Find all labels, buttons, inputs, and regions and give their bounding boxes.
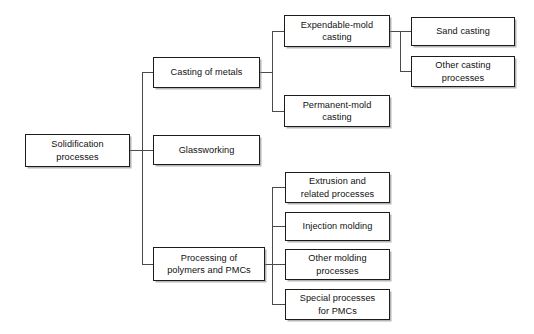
node-label-line2: casting	[288, 111, 386, 123]
solidification-processes-diagram: Solidification processes Casting of meta…	[0, 0, 534, 334]
node-label: Processing of polymers and PMCs	[157, 252, 261, 276]
node-label-line2: processes	[415, 72, 511, 84]
node-label-line1: Expendable-mold	[288, 19, 386, 31]
node-label-line1: Other casting	[415, 59, 511, 71]
connector-trunk-level1	[142, 72, 143, 264]
node-label-line1: Solidification	[29, 138, 126, 150]
node-label: Injection molding	[289, 220, 386, 232]
node-label: Expendable-mold casting	[288, 19, 386, 43]
node-label-line1: Extrusion and	[289, 175, 386, 187]
node-label-line1: Processing of	[157, 252, 261, 264]
node-sand-casting[interactable]: Sand casting	[411, 17, 515, 46]
node-label-line2: casting	[288, 31, 386, 43]
node-solidification-processes[interactable]: Solidification processes	[25, 134, 130, 167]
node-label: Casting of metals	[157, 66, 256, 78]
node-label-line1: Permanent-mold	[288, 99, 386, 111]
connector-expendable-to-sand	[400, 31, 411, 32]
node-label-line2: processes	[29, 151, 126, 163]
node-label: Special processes for PMCs	[289, 292, 386, 316]
node-other-casting-processes[interactable]: Other casting processes	[411, 56, 515, 87]
node-label-line1: Injection molding	[289, 220, 386, 232]
node-processing-of-polymers-and-pmcs[interactable]: Processing of polymers and PMCs	[153, 247, 265, 281]
node-casting-of-metals[interactable]: Casting of metals	[153, 57, 260, 88]
node-other-molding-processes[interactable]: Other molding processes	[285, 249, 390, 280]
node-label: Sand casting	[415, 25, 511, 37]
connector-casting-to-expendable	[272, 31, 284, 32]
node-label-line2: processes	[289, 265, 386, 277]
node-label: Other molding processes	[289, 252, 386, 276]
node-extrusion-and-related-processes[interactable]: Extrusion and related processes	[285, 172, 390, 203]
node-label-line2: related processes	[289, 188, 386, 200]
connector-casting-branch-vertical	[272, 31, 273, 111]
node-special-processes-for-pmcs[interactable]: Special processes for PMCs	[285, 289, 390, 320]
node-label: Solidification processes	[29, 138, 126, 162]
connector-polymers-branch-vertical	[272, 187, 273, 304]
node-label-line1: Other molding	[289, 252, 386, 264]
connector-polymers-to-injection	[272, 226, 285, 227]
node-label-line2: for PMCs	[289, 305, 386, 317]
connector-casting-to-permanent	[272, 111, 284, 112]
node-label-line1: Sand casting	[415, 25, 511, 37]
node-label-line2: polymers and PMCs	[157, 264, 261, 276]
connector-expendable-branch-vertical	[400, 31, 401, 71]
node-permanent-mold-casting[interactable]: Permanent-mold casting	[284, 95, 390, 127]
node-label: Other casting processes	[415, 59, 511, 83]
connector-polymers-to-special	[272, 304, 285, 305]
node-injection-molding[interactable]: Injection molding	[285, 212, 390, 241]
node-label: Glassworking	[157, 144, 256, 156]
node-label: Extrusion and related processes	[289, 175, 386, 199]
node-label-line1: Glassworking	[157, 144, 256, 156]
connector-polymers-to-extrusion	[272, 187, 285, 188]
node-glassworking[interactable]: Glassworking	[153, 135, 260, 165]
connector-polymers-to-other-molding	[272, 264, 285, 265]
node-label-line1: Casting of metals	[157, 66, 256, 78]
node-label-line1: Special processes	[289, 292, 386, 304]
connector-expendable-to-other-casting	[400, 71, 411, 72]
node-expendable-mold-casting[interactable]: Expendable-mold casting	[284, 15, 390, 47]
node-label: Permanent-mold casting	[288, 99, 386, 123]
